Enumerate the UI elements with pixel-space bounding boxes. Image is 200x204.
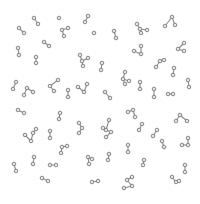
atom-circle <box>31 131 35 135</box>
atom-circle <box>22 31 26 35</box>
atom-circle <box>131 108 135 112</box>
molecule-glyph <box>186 78 191 89</box>
atom-circle <box>162 145 166 149</box>
atom-circle <box>76 85 80 89</box>
atom-circle <box>14 169 18 173</box>
atom-circle <box>92 31 96 35</box>
molecule-glyph <box>126 143 130 154</box>
molecule-canvas <box>0 0 200 204</box>
atom-circle <box>90 180 94 184</box>
atom-circle <box>141 163 145 167</box>
molecule-glyph <box>11 80 18 91</box>
atom-circle <box>11 87 15 91</box>
molecule-glyph <box>16 46 21 57</box>
atom-circle <box>22 111 26 115</box>
atom-circle <box>114 36 118 40</box>
molecule-glyph <box>160 139 166 149</box>
atom-circle <box>109 130 113 134</box>
atom-circle <box>183 170 187 174</box>
atom-circle <box>176 47 180 51</box>
atom-circle <box>142 158 146 162</box>
molecule-glyph <box>34 55 38 65</box>
atom-circle <box>48 136 52 140</box>
atom-circle <box>12 162 16 166</box>
atom-circle <box>48 129 52 133</box>
atom-circle <box>104 135 108 139</box>
atom-circle <box>166 92 170 96</box>
atom-circle <box>130 184 134 188</box>
atom-circle <box>106 158 110 162</box>
atom-circle <box>185 119 189 123</box>
atom-circle <box>47 44 51 48</box>
atom-circle <box>170 175 174 179</box>
atom-circle <box>56 78 60 82</box>
atom-circle <box>86 56 90 60</box>
atom-circle <box>22 93 26 97</box>
molecule-glyph <box>23 127 38 143</box>
atom-circle <box>171 92 175 96</box>
atom-circle <box>34 127 38 131</box>
molecule-glyph <box>141 158 146 167</box>
atom-circle <box>158 59 162 63</box>
molecule-glyph <box>152 87 156 99</box>
atom-circle <box>151 134 155 138</box>
atom-circle <box>23 133 27 137</box>
molecule-glyph <box>122 175 134 190</box>
atom-circle <box>29 139 33 143</box>
atom-circle <box>32 16 36 20</box>
atom-circle <box>126 143 130 147</box>
atom-circle <box>40 176 44 180</box>
molecule-glyph <box>183 163 187 174</box>
atom-circle <box>42 40 46 44</box>
molecule-glyph <box>90 179 100 184</box>
atom-circle <box>138 27 142 31</box>
molecule-glyph <box>86 155 94 166</box>
atom-circle <box>178 113 182 117</box>
atom-circle <box>160 139 164 143</box>
atom-circle <box>48 84 52 88</box>
molecule-glyph <box>99 61 104 72</box>
atom-circle <box>87 162 91 166</box>
atom-circle <box>154 65 158 69</box>
atom-circle <box>60 145 64 149</box>
atom-circle <box>107 152 111 156</box>
atom-circle <box>139 52 143 56</box>
atom-circle <box>82 90 86 94</box>
atom-circle <box>186 78 190 82</box>
atom-circle <box>34 55 38 59</box>
atom-circle <box>122 186 126 190</box>
atom-circle <box>126 150 130 154</box>
molecule-glyph <box>78 53 90 68</box>
molecule-glyph <box>170 175 181 184</box>
molecule-glyph <box>138 80 142 91</box>
molecule-glyph <box>77 121 84 135</box>
molecule-glyph <box>16 108 26 115</box>
molecule-glyph <box>101 118 113 139</box>
atom-circle <box>107 118 111 122</box>
atom-circle <box>80 59 84 63</box>
atom-circle <box>60 28 64 32</box>
atom-circle <box>17 53 21 57</box>
atom-circle <box>90 157 94 161</box>
molecule-glyph <box>132 44 143 56</box>
atom-circle <box>183 163 187 167</box>
atom-circle <box>16 46 20 50</box>
atom-circle <box>86 155 90 159</box>
atom-circle <box>46 179 50 183</box>
atom-circle <box>123 70 127 74</box>
atom-circle <box>170 15 174 19</box>
molecule-glyph <box>76 82 89 94</box>
molecule-glyph <box>60 26 70 38</box>
atom-circle <box>36 22 40 26</box>
molecule-glyph <box>31 155 36 166</box>
atom-circle <box>52 89 56 93</box>
atom-circle <box>62 34 66 38</box>
atom-circle <box>132 49 136 53</box>
atom-circle <box>77 121 81 125</box>
molecule-glyph <box>137 122 144 132</box>
atom-circle <box>174 119 178 123</box>
atom-circle <box>139 31 143 35</box>
atom-circle <box>152 95 156 99</box>
atom-circle <box>138 80 142 84</box>
atom-circle <box>86 14 90 18</box>
